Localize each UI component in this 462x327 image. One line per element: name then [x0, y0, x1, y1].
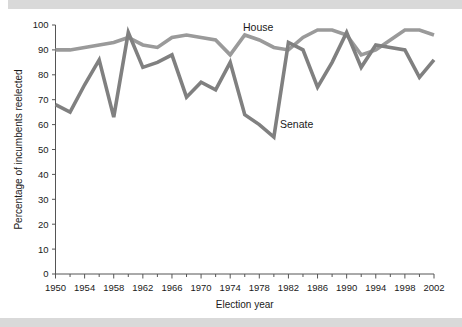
x-tick-label: 1978: [249, 282, 270, 293]
x-tick-label: 1966: [161, 282, 182, 293]
x-tick-label: 1990: [336, 282, 357, 293]
y-tick-label: 0: [43, 268, 48, 279]
x-tick-label: 1950: [45, 282, 66, 293]
x-tick-label: 1982: [278, 282, 299, 293]
x-tick-label: 2002: [423, 282, 444, 293]
x-tick-label: 1986: [307, 282, 328, 293]
series-label-senate: Senate: [280, 118, 313, 130]
y-tick-label: 40: [38, 169, 49, 180]
data-series-group: [56, 30, 435, 137]
series-label-house: House: [243, 21, 274, 33]
x-axis-ticks: [56, 274, 435, 279]
x-axis-title: Election year: [216, 299, 274, 310]
axes-group: [52, 25, 434, 279]
y-axis-tick-labels: 0102030405060708090100: [33, 19, 49, 279]
x-tick-label: 1962: [132, 282, 153, 293]
y-axis-title: Percentage of incumbents reelected: [13, 69, 24, 229]
y-tick-label: 80: [38, 69, 49, 80]
x-tick-label: 1958: [103, 282, 124, 293]
y-tick-label: 70: [38, 94, 49, 105]
y-tick-label: 10: [38, 244, 49, 255]
x-axis-tick-labels: 1950195419581962196619701974197819821986…: [45, 282, 445, 293]
line-chart: 0102030405060708090100 19501954195819621…: [0, 0, 462, 327]
x-tick-label: 1974: [220, 282, 241, 293]
y-tick-label: 50: [38, 144, 49, 155]
y-axis-ticks: [52, 25, 56, 274]
y-tick-label: 60: [38, 119, 49, 130]
y-tick-label: 100: [33, 19, 49, 30]
x-tick-label: 1994: [365, 282, 386, 293]
series-line-house: [56, 30, 435, 55]
x-tick-label: 1954: [74, 282, 95, 293]
x-tick-label: 1970: [191, 282, 212, 293]
y-tick-label: 20: [38, 219, 49, 230]
y-tick-label: 90: [38, 44, 49, 55]
figure-container: 0102030405060708090100 19501954195819621…: [0, 0, 462, 327]
x-tick-label: 1998: [394, 282, 415, 293]
y-tick-label: 30: [38, 194, 49, 205]
